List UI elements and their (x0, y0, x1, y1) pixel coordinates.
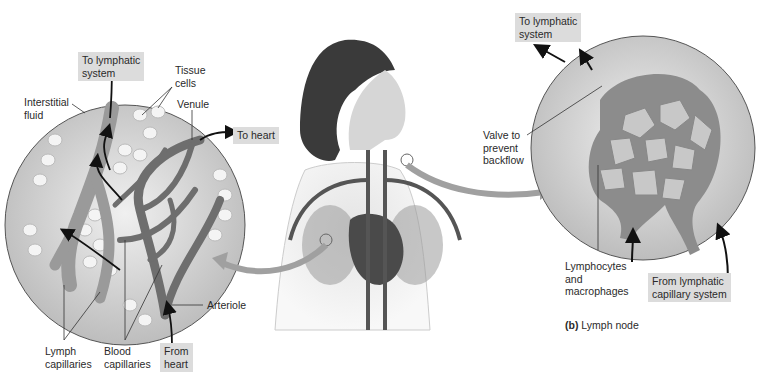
label-arteriole: Arteriole (207, 299, 246, 312)
label-to-heart: To heart (233, 127, 279, 144)
label-lymphocytes-and-macrophages: Lymphocytes and macrophages (565, 260, 629, 298)
human-torso-illustration (275, 40, 460, 330)
caption-letter: (b) (565, 319, 578, 331)
label-from-heart: From heart (160, 343, 193, 372)
label-from-lymphatic-capillary-system: From lymphatic capillary system (648, 273, 731, 302)
caption-lymph-node: (b) Lymph node (565, 319, 639, 332)
label-interstitial-fluid: Interstitial fluid (24, 96, 69, 121)
caption-text: Lymph node (578, 319, 638, 331)
label-valve-to-prevent-backflow: Valve to prevent backflow (483, 129, 524, 167)
label-to-lymphatic-system-b: To lymphatic system (515, 13, 581, 42)
label-venule: Venule (177, 98, 209, 111)
label-lymph-capillaries: Lymph capillaries (45, 345, 92, 370)
label-to-lymphatic-system-a: To lymphatic system (78, 52, 144, 81)
label-tissue-cells: Tissue cells (175, 64, 206, 89)
label-blood-capillaries: Blood capillaries (104, 345, 151, 370)
lymph-node-circle (531, 36, 755, 280)
